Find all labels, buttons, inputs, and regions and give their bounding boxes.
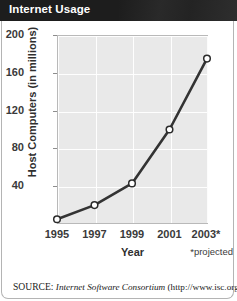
x-axis-tick-label-2003: 2003* <box>178 228 234 240</box>
chart-figure: Internet Usage 200 160 120 80 40 1995 19… <box>0 0 237 301</box>
gridline-vertical-1999 <box>133 36 134 223</box>
source-line: SOURCE: Internet Software Consortium (ht… <box>13 281 229 292</box>
y-axis-tick-mark-120 <box>53 111 57 112</box>
source-organization: Internet Software Consortium <box>56 282 165 292</box>
y-axis-tick-label-80: 80 <box>0 141 24 153</box>
y-axis-tick-label-200: 200 <box>0 28 24 40</box>
projected-annotation: *projected <box>155 246 233 257</box>
source-label: SOURCE: <box>13 281 54 292</box>
gridline-vertical-2003 <box>207 36 208 223</box>
source-url: (http://www.isc.org) <box>168 282 237 292</box>
gridline-vertical-1997 <box>96 36 97 223</box>
y-axis-tick-mark-200 <box>53 35 57 36</box>
gridline-vertical-1995 <box>58 36 59 223</box>
plot-area <box>57 35 208 224</box>
y-axis-tick-mark-80 <box>53 148 57 149</box>
page-title: Internet Usage <box>9 3 90 15</box>
y-axis-tick-label-120: 120 <box>0 104 24 116</box>
title-bar-texture <box>119 0 237 21</box>
y-axis-tick-mark-40 <box>53 186 57 187</box>
y-axis-tick-mark-160 <box>53 73 57 74</box>
y-axis-tick-label-160: 160 <box>0 66 24 78</box>
y-axis-tick-label-40: 40 <box>0 179 24 191</box>
gridline-vertical-2001 <box>171 36 172 223</box>
y-axis-title: Host Computers (in millions) <box>26 7 38 197</box>
